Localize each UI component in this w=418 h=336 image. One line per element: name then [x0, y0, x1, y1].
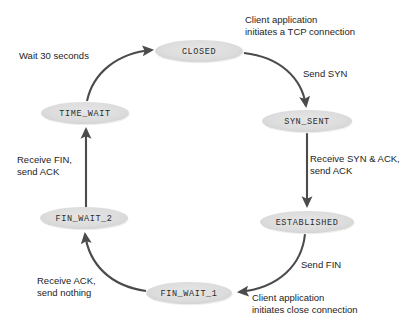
edge-label-recv-ack-line1: Receive ACK, — [37, 275, 96, 286]
state-node-fin_wait_1[interactable]: FIN_WAIT_1 — [146, 282, 233, 305]
edge-label-recv-fin-line2: send ACK — [17, 166, 60, 177]
edge-label-recv-syn-ack-line1: Receive SYN & ACK, — [310, 153, 400, 164]
diagram-canvas: CLOSEDSYN_SENTESTABLISHEDFIN_WAIT_1FIN_W… — [0, 0, 418, 336]
state-node-syn_sent[interactable]: SYN_SENT — [262, 110, 353, 133]
edge-label-recv-syn-ack-line2: send ACK — [310, 165, 353, 176]
transition-arrow — [87, 50, 152, 101]
edge-label-client-app-close-line2: initiates close connection — [252, 304, 358, 315]
state-node-label: TIME_WAIT — [59, 109, 110, 119]
state-node-time_wait[interactable]: TIME_WAIT — [41, 102, 130, 125]
edge-label-recv-ack-line2: send nothing — [37, 287, 91, 298]
state-node-label: ESTABLISHED — [276, 218, 339, 228]
edge-label-client-app-close-line1: Client application — [252, 292, 324, 303]
edge-label-send-syn: Send SYN — [303, 68, 347, 79]
transition-arrow — [244, 53, 306, 106]
transition-arrow — [239, 234, 305, 292]
state-node-label: SYN_SENT — [284, 117, 330, 127]
state-node-label: CLOSED — [182, 47, 216, 57]
edge-label-wait-30-seconds: Wait 30 seconds — [19, 50, 89, 61]
state-node-label: FIN_WAIT_2 — [55, 214, 112, 224]
state-node-label: FIN_WAIT_1 — [160, 289, 217, 299]
tcp-state-diagram: CLOSEDSYN_SENTESTABLISHEDFIN_WAIT_1FIN_W… — [0, 0, 418, 336]
edge-label-client-app-open-line2: initiates a TCP connection — [245, 26, 355, 37]
state-node-fin_wait_2[interactable]: FIN_WAIT_2 — [40, 207, 129, 230]
edges-layer — [85, 50, 307, 292]
state-node-closed[interactable]: CLOSED — [155, 40, 244, 63]
edge-label-send-fin: Send FIN — [301, 259, 341, 270]
edge-label-recv-fin-line1: Receive FIN, — [17, 154, 72, 165]
edge-label-client-app-open-line1: Client application — [245, 14, 317, 25]
state-node-established[interactable]: ESTABLISHED — [260, 211, 355, 234]
